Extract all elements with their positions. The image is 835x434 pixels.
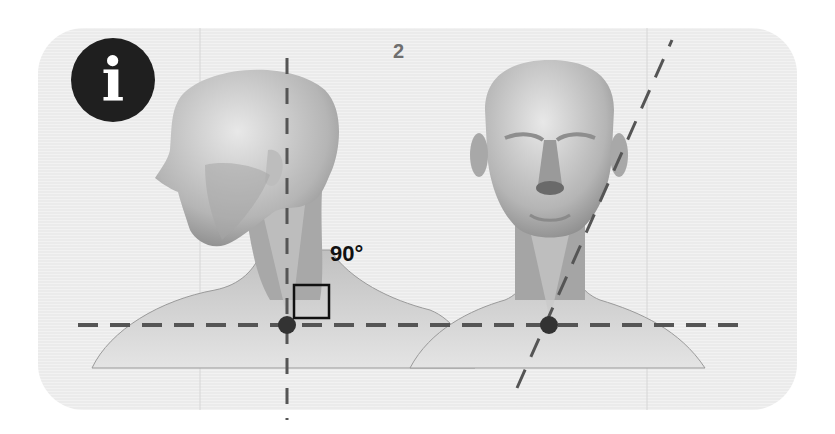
front-view-figure	[410, 60, 705, 368]
info-icon: i	[71, 38, 155, 122]
pivot-point-side	[278, 316, 296, 334]
step-number: 2	[393, 40, 404, 63]
pivot-point-front	[540, 316, 558, 334]
angle-label: 90°	[330, 241, 363, 267]
info-glyph: i	[102, 50, 125, 110]
